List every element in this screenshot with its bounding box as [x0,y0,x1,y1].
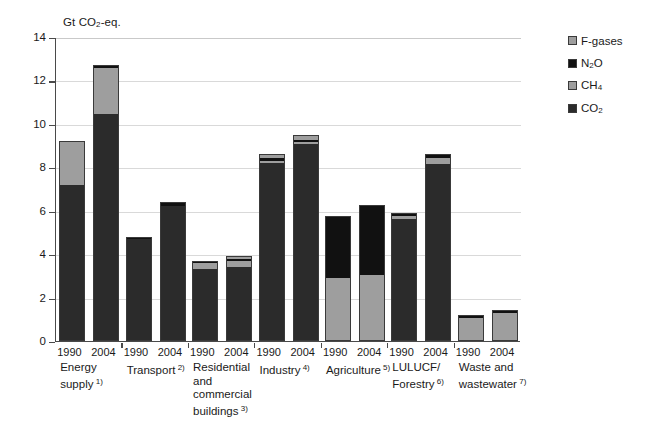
legend-item-fgases[interactable]: F-gases [568,31,668,50]
x-axis-tick-mark [188,343,189,348]
bar-segment-co2 [392,219,416,340]
legend-label-co2: CO2 [581,102,603,115]
category-label-line: wastewater 7) [459,375,529,392]
gridline [56,125,521,126]
bar-segment-ch4 [60,142,84,185]
x-axis-category-label: Transport 2) [127,361,197,378]
category-label-line: Energy [60,361,130,375]
x-axis-category-label: Agriculture 5) [326,361,396,378]
x-axis-year-label: 2004 [490,346,514,358]
bar-energy-supply-1990 [59,141,85,341]
legend-label-fgases: F-gases [581,35,623,47]
bar-lulucf-forestry-1990 [391,213,417,341]
y-axis-title-suffix: -eq. [101,16,121,28]
x-axis-year-label: 2004 [91,346,115,358]
legend-swatch-n2o [568,59,577,68]
category-footnote-marker: 1) [93,377,102,386]
x-axis-tick-mark [254,343,255,348]
x-axis-year-label: 1990 [257,346,281,358]
bar-segment-ch4 [459,318,483,340]
legend-swatch-fgases [568,36,577,45]
x-axis-category-label: LULUCF/Forestry 6) [392,361,462,391]
x-axis-year-label: 1990 [124,346,148,358]
bar-segment-co2 [193,269,217,340]
bar-residential-and-commercial-buildings-2004 [226,256,252,341]
bar-segment-co2 [127,239,151,340]
x-axis-tick-mark [121,343,122,348]
bar-agriculture-1990 [325,216,351,341]
bar-segment-co2 [426,164,450,340]
x-axis-year-label: 2004 [158,346,182,358]
bar-segment-n2o [360,206,384,274]
y-axis-title-prefix: Gt CO [63,16,96,28]
gridline [56,38,521,39]
x-axis-category-label: Industry 4) [260,361,330,378]
x-axis-category-label: Waste andwastewater 7) [459,361,529,391]
category-label-line: supply 1) [60,375,130,392]
plot-area [55,38,520,342]
category-label-line: Agriculture 5) [326,361,396,378]
bar-segment-co2 [60,185,84,340]
bar-segment-ch4 [326,278,350,340]
bar-segment-co2 [161,206,185,340]
legend-item-n2o[interactable]: N2O [568,54,668,73]
category-label-line: Forestry 6) [392,375,462,392]
bar-agriculture-2004 [359,205,385,341]
x-axis-year-label: 1990 [456,346,480,358]
emissions-stacked-bar-chart: Gt CO2-eq. 02468101214 19902004Energysup… [0,0,668,433]
bar-segment-ch4 [94,68,118,113]
bar-segment-n2o [326,217,350,278]
category-footnote-marker: 4) [300,363,309,372]
legend: F-gasesN2OCH4CO2 [568,31,668,121]
x-axis-year-label: 1990 [57,346,81,358]
bar-transport-2004 [160,202,186,341]
bar-segment-co2 [94,114,118,340]
category-label-line: Waste and [459,361,529,375]
legend-swatch-ch4 [568,81,577,90]
x-axis-category-label: Residentialandcommercialbuildings 3) [193,361,263,418]
x-axis-year-label: 1990 [389,346,413,358]
bar-segment-co2 [294,144,318,340]
category-footnote-marker: 5) [381,363,390,372]
bar-transport-1990 [126,237,152,341]
category-footnote-marker: 2) [175,363,184,372]
bar-segment-co2 [227,267,251,340]
x-axis-year-label: 2004 [423,346,447,358]
bar-segment-ch4 [493,313,517,340]
legend-item-ch4[interactable]: CH4 [568,76,668,95]
x-axis-year-label: 1990 [190,346,214,358]
bar-residential-and-commercial-buildings-1990 [192,261,218,341]
category-label-line: Residential [193,361,263,375]
legend-label-n2o: N2O [581,57,603,70]
x-axis-tick-mark [321,343,322,348]
category-footnote-marker: 7) [517,377,526,386]
x-axis-category-label: Energysupply 1) [60,361,130,391]
gridline [56,81,521,82]
x-axis-year-label: 2004 [224,346,248,358]
category-label-line: buildings 3) [193,402,263,419]
category-footnote-marker: 3) [238,404,247,413]
category-label-line: Transport 2) [127,361,197,378]
category-label-line: and [193,375,263,389]
bar-lulucf-forestry-2004 [425,154,451,341]
bar-segment-co2 [260,163,284,340]
x-axis-tick-mark [454,343,455,348]
x-axis-year-label: 1990 [323,346,347,358]
category-label-line: Industry 4) [260,361,330,378]
category-label-line: commercial [193,388,263,402]
y-axis-title: Gt CO2-eq. [63,16,121,29]
legend-item-co2[interactable]: CO2 [568,99,668,118]
x-axis-year-label: 2004 [357,346,381,358]
x-axis-tick-mark [387,343,388,348]
category-footnote-marker: 6) [435,377,444,386]
bar-waste-and-wastewater-1990 [458,315,484,341]
legend-label-ch4: CH4 [581,79,602,92]
x-axis-labels: 19902004Energysupply 1)19902004Transport… [0,343,668,433]
bar-waste-and-wastewater-2004 [492,310,518,341]
bar-energy-supply-2004 [93,65,119,341]
bar-segment-ch4 [360,275,384,340]
bar-industry-1990 [259,154,285,341]
category-label-line: LULUCF/ [392,361,462,375]
x-axis-year-label: 2004 [291,346,315,358]
bar-industry-2004 [293,135,319,341]
